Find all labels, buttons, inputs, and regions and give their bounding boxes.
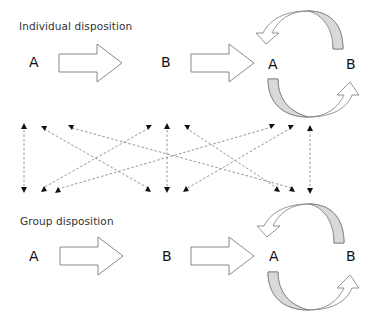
arrowhead-icon (55, 187, 61, 193)
arrowhead-icon (307, 125, 313, 131)
diagram-canvas (0, 0, 377, 326)
top-arrow-b-to-cycle (191, 44, 254, 82)
arrowhead-icon (184, 125, 190, 130)
arrowhead-icon (274, 186, 280, 192)
dashed-link-network (24, 127, 310, 189)
arrowhead-icon (41, 186, 47, 192)
bottom-cycle-upper-arrow (257, 204, 344, 243)
top-arrow-a-to-b (59, 44, 122, 82)
arrowhead-icon (21, 123, 27, 129)
bottom-cycle-lower-arrow (268, 272, 359, 310)
top-cycle-upper-arrow (256, 11, 343, 49)
arrowhead-icon (183, 186, 189, 192)
arrowhead-icon (289, 186, 295, 192)
bottom-arrow-b-to-cycle (191, 237, 254, 275)
arrowhead-icon (269, 124, 275, 129)
arrowhead-icon (164, 123, 170, 129)
bottom-arrow-a-to-b (60, 237, 123, 275)
arrowhead-icon (68, 125, 74, 130)
top-cycle-lower-arrow (268, 79, 359, 117)
arrowhead-icon (307, 188, 313, 194)
arrowhead-icon (164, 187, 170, 193)
arrowhead-icon (21, 187, 27, 193)
